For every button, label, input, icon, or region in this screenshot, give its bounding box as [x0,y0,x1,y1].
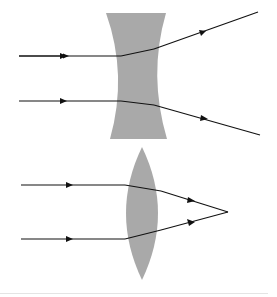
lens-diagram [0,0,277,297]
bottom-divider [0,293,268,294]
arrow-icon [66,236,73,242]
concave-lens-shape [106,13,167,139]
convex-ray-lower [21,212,228,239]
arrow-icon [187,197,195,203]
arrow-icon [199,30,206,36]
convex-ray-upper [21,185,228,212]
diagram-canvas [0,0,277,297]
arrow-icon [187,219,195,226]
arrow-icon [60,53,67,59]
arrow-icon [60,98,67,104]
convex-lens-shape [126,147,158,280]
arrow-icon [66,182,73,188]
